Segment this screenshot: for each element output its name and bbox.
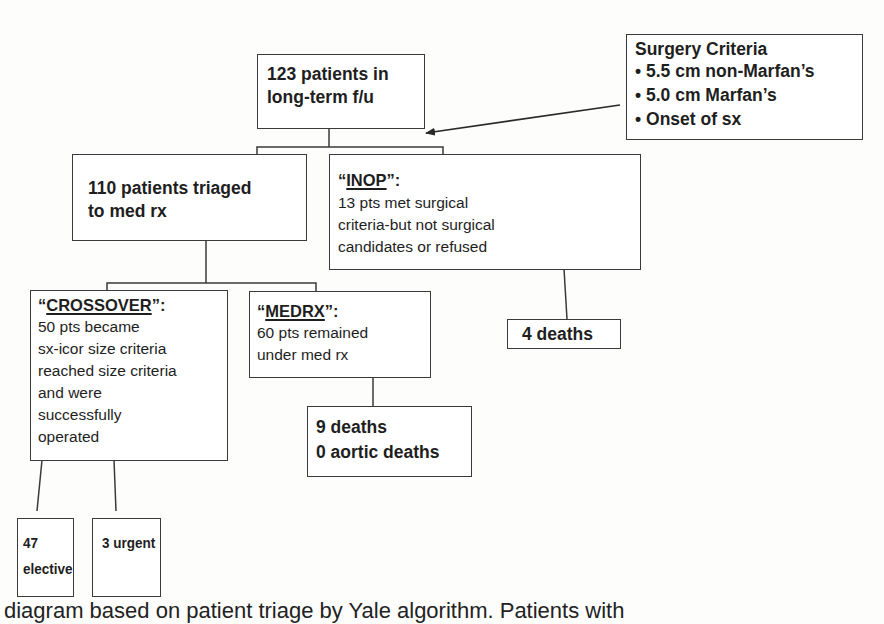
inop-deaths-label: 4 deaths [522,323,593,345]
medrx-deaths-box: 9 deaths 0 aortic deaths [307,406,472,477]
medrx-deaths-line-1: 9 deaths [316,416,387,438]
inop-line-3: candidates or refused [338,236,487,258]
medrx-heading: “MEDRX”: [257,300,339,322]
medrx-box: “MEDRX”: 60 pts remained under med rx [249,291,431,378]
criteria-heading: Surgery Criteria [635,38,767,60]
crossover-line-6: operated [38,426,99,448]
surgery-criteria-box: Surgery Criteria • 5.5 cm non-Marfan’s •… [626,34,863,140]
cohort-line-1: 123 patients in [267,63,389,85]
triaged-line-2: to med rx [88,200,167,222]
inop-heading: “INOP”: [338,169,400,191]
criteria-item-3: • Onset of sx [635,108,741,130]
medrx-line-2: under med rx [257,344,348,366]
crossover-line-3: reached size criteria [38,360,177,382]
crossover-line-5: successfully [38,404,122,426]
urgent-box: 3 urgent [92,518,161,597]
medrx-line-1: 60 pts remained [257,322,368,344]
arrow-criteria [426,105,620,133]
inop-line-2: criteria-but not surgical [338,214,495,236]
medrx-deaths-line-2: 0 aortic deaths [316,441,440,463]
criteria-item-1: • 5.5 cm non-Marfan’s [635,60,815,82]
triaged-line-1: 110 patients triaged [88,177,251,199]
crossover-heading: “CROSSOVER”: [38,294,165,316]
crossover-box: “CROSSOVER”: 50 pts became sx-icor size … [30,290,228,461]
inop-box: “INOP”: 13 pts met surgical criteria-but… [329,154,641,270]
elective-line-1: 47 [23,531,38,555]
urgent-label: 3 urgent [102,531,155,555]
cohort-box: 123 patients in long-term f/u [257,54,425,129]
cohort-line-2: long-term f/u [267,86,374,108]
elective-box: 47 elective [17,518,74,597]
elective-line-2: elective [23,557,73,581]
inop-deaths-box: 4 deaths [507,319,621,349]
crossover-line-4: and were [38,382,102,404]
inop-line-1: 13 pts met surgical [338,192,468,214]
criteria-item-2: • 5.0 cm Marfan’s [635,84,777,106]
triaged-box: 110 patients triaged to med rx [72,154,307,241]
crossover-line-2: sx-icor size criteria [38,338,166,360]
figure-caption: diagram based on patient triage by Yale … [4,598,624,624]
crossover-line-1: 50 pts became [38,316,140,338]
